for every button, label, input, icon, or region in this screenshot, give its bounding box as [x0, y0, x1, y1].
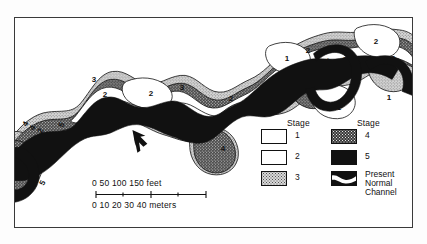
legend-swatch-stage-5 — [331, 150, 357, 165]
map-stage-label: 3 — [180, 84, 184, 92]
map-stage-label: 1 — [106, 114, 110, 122]
map-stage-label: 2 — [103, 91, 107, 99]
map-stage-label: 3 — [343, 56, 347, 64]
map-stage-label: 2 — [198, 120, 202, 128]
legend-header-left: Stage — [287, 118, 310, 128]
map-stage-label: 3 — [260, 84, 264, 92]
legend-item-present-channel[interactable]: PresentNormalChannel — [331, 171, 399, 188]
legend-item-stage-3[interactable]: 3 — [261, 171, 329, 188]
map-stage-label: 2 — [229, 95, 233, 103]
map-stage-label: 1 — [180, 127, 184, 135]
legend-label-stage-4: 4 — [365, 131, 370, 140]
legend-header-right: Stage — [357, 118, 380, 128]
legend-label-present-channel: PresentNormalChannel — [365, 170, 397, 198]
legend-item-stage-2[interactable]: 2 — [261, 150, 329, 167]
legend-label-stage-1: 1 — [295, 131, 300, 140]
figure-container: 44215245321231224331254321231 Stage 1 2 … — [0, 0, 427, 244]
map-stage-label: 2 — [336, 71, 340, 79]
map-stage-label: 2 — [149, 90, 153, 98]
legend-item-stage-1[interactable]: 1 — [261, 129, 329, 146]
map-stage-label: 1 — [337, 104, 341, 112]
map-stage-label: 2 — [306, 47, 310, 55]
legend-item-stage-4[interactable]: 4 — [331, 129, 399, 146]
legend-swatch-stage-3 — [261, 171, 287, 186]
scale-bar: 0 50 100 150 feet 0 10 20 30 40 meters — [92, 178, 222, 214]
legend: Stage 1 2 3 Stage 4 5 — [261, 118, 401, 210]
map-stage-label: 2 — [374, 38, 378, 46]
legend-swatch-present-channel — [331, 171, 357, 186]
legend-label-stage-2: 2 — [295, 152, 300, 161]
map-stage-label: 3 — [92, 76, 96, 84]
legend-label-stage-3: 3 — [295, 173, 300, 182]
legend-item-stage-5[interactable]: 5 — [331, 150, 399, 167]
scale-meters-text: 0 10 20 30 40 meters — [92, 200, 176, 210]
legend-swatch-stage-1 — [261, 129, 287, 144]
scale-ruler — [94, 190, 214, 199]
map-stage-label: 1 — [387, 94, 391, 102]
legend-swatch-stage-2 — [261, 150, 287, 165]
map-stage-label: 3 — [391, 55, 395, 63]
map-stage-label: 4 — [221, 145, 225, 153]
scale-feet-text: 0 50 100 150 feet — [92, 178, 162, 188]
legend-swatch-stage-4 — [331, 129, 357, 144]
map-stage-label: 3 — [293, 69, 297, 77]
legend-label-stage-5: 5 — [365, 152, 370, 161]
map-stage-label: 1 — [285, 55, 289, 63]
